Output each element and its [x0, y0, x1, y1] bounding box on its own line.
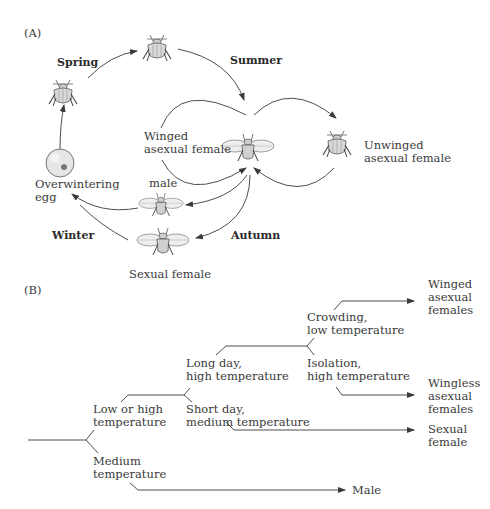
condition-medium-temperature: Medium temperature [93, 455, 166, 481]
unwinged-asexual-female-icon [323, 131, 351, 157]
season-summer: Summer [230, 54, 282, 67]
condition-long-day: Long day, high temperature [186, 357, 289, 383]
outcome-winged-asexual-females: Winged asexual females [428, 278, 473, 317]
stage-male: male [149, 177, 177, 190]
stage-overwintering-egg: Overwintering egg [35, 178, 120, 204]
outcome-wingless-asexual-females: Wingless asexual females [428, 377, 480, 416]
fundatrix-aphid-icon [143, 35, 171, 61]
season-winter: Winter [52, 229, 94, 242]
life-cycle-arrows [0, 0, 490, 509]
panel-b-label: (B) [24, 283, 41, 297]
outcome-male: Male [352, 484, 381, 497]
spring-aphid-icon [49, 80, 77, 106]
outcome-sexual-female: Sexual female [428, 423, 467, 449]
sexual-female-icon [137, 228, 189, 255]
season-spring: Spring [57, 56, 98, 69]
stage-unwinged-asexual-female: Unwinged asexual female [364, 139, 451, 165]
stage-sexual-female: Sexual female [129, 268, 211, 281]
season-autumn: Autumn [231, 229, 280, 242]
condition-isolation: Isolation, high temperature [307, 357, 410, 383]
condition-crowding: Crowding, low temperature [307, 311, 404, 337]
stage-winged-asexual-female: Winged asexual female [144, 130, 231, 156]
condition-low-or-high-temperature: Low or high temperature [93, 403, 166, 429]
male-aphid-icon [139, 193, 183, 216]
overwintering-egg-icon [46, 149, 74, 177]
condition-short-day: Short day, medium temperature [186, 403, 310, 429]
